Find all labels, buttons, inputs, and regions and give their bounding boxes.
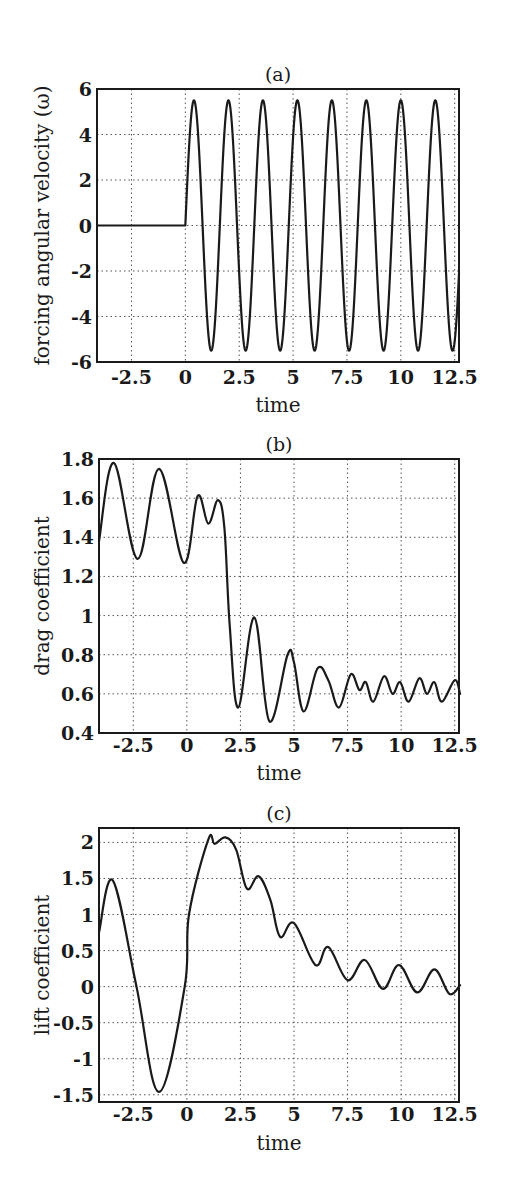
figure: -2.502.557.51012.5 -6-4-20246 (a) time f…	[0, 0, 507, 1185]
y-tick-label: 1.4	[61, 526, 94, 548]
y-tick-label: 0.6	[61, 683, 94, 705]
y-axis-label: lift coefficient	[30, 895, 54, 1036]
x-tick-label: 10	[388, 734, 414, 756]
y-tick-label: -6	[71, 351, 92, 373]
panel-title: (a)	[265, 63, 291, 85]
x-tick-label: 10	[388, 366, 414, 388]
y-tick-labels: -6-4-20246	[71, 78, 92, 373]
x-tick-label: 5	[287, 1103, 300, 1125]
y-tick-label: 1	[81, 904, 94, 926]
panel-b: -2.502.557.51012.5 0.40.60.811.21.41.61.…	[30, 433, 478, 785]
x-axis-label: time	[255, 393, 300, 417]
x-tick-label: 12.5	[432, 366, 478, 388]
y-tick-label: 0	[81, 976, 94, 998]
panel-a: -2.502.557.51012.5 -6-4-20246 (a) time f…	[30, 63, 478, 417]
x-tick-label: 12.5	[432, 1103, 478, 1125]
x-tick-label: 7.5	[330, 366, 363, 388]
x-tick-label: 0	[180, 734, 193, 756]
x-tick-label: 2.5	[224, 1103, 257, 1125]
x-tick-label: -2.5	[111, 366, 152, 388]
y-tick-label: 0	[79, 215, 92, 237]
y-tick-label: 2	[81, 831, 94, 853]
y-tick-label: 0.8	[61, 644, 94, 666]
y-tick-label: -1.5	[53, 1084, 94, 1106]
panel-title: (b)	[266, 433, 293, 455]
x-tick-label: 2.5	[223, 366, 256, 388]
x-tick-label: 7.5	[331, 734, 364, 756]
x-tick-label: -2.5	[113, 1103, 154, 1125]
y-tick-label: 1.6	[61, 487, 94, 509]
y-tick-label: 0.4	[61, 722, 94, 744]
y-tick-label: -2	[71, 260, 92, 282]
x-tick-label: 5	[287, 734, 300, 756]
y-tick-label: 1	[81, 605, 94, 627]
y-tick-labels: 0.40.60.811.21.41.61.8	[61, 448, 94, 744]
y-tick-label: 2	[79, 169, 92, 191]
x-tick-label: 12.5	[432, 734, 478, 756]
y-axis-label: forcing angular velocity (ω)	[30, 85, 54, 365]
y-tick-label: 6	[79, 78, 92, 100]
lift-coefficient-curve	[99, 835, 460, 1092]
x-tick-labels: -2.502.557.51012.5	[113, 734, 478, 756]
y-tick-label: 1.8	[61, 448, 94, 470]
x-tick-label: 0	[179, 366, 192, 388]
y-tick-label: -1	[73, 1048, 94, 1070]
x-axis-label: time	[256, 761, 301, 785]
x-tick-label: 7.5	[331, 1103, 364, 1125]
y-tick-labels: -1.5-1-0.500.511.52	[53, 831, 94, 1105]
y-tick-label: 4	[79, 124, 92, 146]
drag-coefficient-curve	[99, 463, 460, 722]
y-tick-label: 0.5	[61, 940, 94, 962]
y-axis-label: drag coefficient	[30, 516, 54, 675]
x-axis-label: time	[256, 1131, 301, 1155]
x-tick-label: 10	[388, 1103, 414, 1125]
x-tick-label: 2.5	[224, 734, 257, 756]
y-tick-label: 1.5	[61, 867, 94, 889]
x-tick-labels: -2.502.557.51012.5	[111, 366, 478, 388]
gridlines	[99, 828, 459, 1102]
x-tick-labels: -2.502.557.51012.5	[113, 1103, 478, 1125]
x-tick-label: 0	[180, 1103, 193, 1125]
x-tick-label: -2.5	[113, 734, 154, 756]
plot-frame	[99, 828, 459, 1102]
y-tick-label: -0.5	[53, 1012, 94, 1034]
panel-c: -2.502.557.51012.5 -1.5-1-0.500.511.52 (…	[30, 802, 478, 1155]
y-tick-label: -4	[71, 306, 92, 328]
panel-title: (c)	[266, 802, 291, 824]
y-tick-label: 1.2	[61, 565, 94, 587]
x-tick-label: 5	[286, 366, 299, 388]
